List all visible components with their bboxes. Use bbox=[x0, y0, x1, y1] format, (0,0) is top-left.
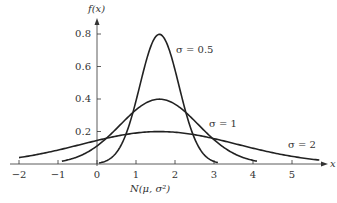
y-tick-label: 0.2 bbox=[61, 127, 91, 137]
chart-caption: N(μ, σ²) bbox=[130, 184, 170, 194]
curve-sigma-1 bbox=[62, 99, 257, 161]
x-axis-label: x bbox=[330, 159, 336, 169]
y-axis-label: f(x) bbox=[88, 4, 105, 14]
x-axis-arrow-icon bbox=[321, 162, 328, 167]
x-tick-label: 3 bbox=[211, 170, 217, 180]
axes bbox=[10, 18, 328, 167]
y-tick-label: 0.6 bbox=[61, 62, 91, 72]
x-tick-label: 5 bbox=[289, 170, 295, 180]
x-tick-label: 4 bbox=[250, 170, 256, 180]
x-tick-label: 2 bbox=[172, 170, 178, 180]
series-label-sigma-0-5: σ = 0.5 bbox=[176, 45, 213, 55]
x-tick-label: 0 bbox=[94, 170, 100, 180]
y-tick-label: 0.8 bbox=[61, 29, 91, 39]
x-tick-label: 1 bbox=[133, 170, 139, 180]
y-axis-arrow-icon bbox=[95, 18, 100, 25]
series-label-sigma-1: σ = 1 bbox=[209, 119, 237, 129]
x-tick-label: −2 bbox=[12, 170, 27, 180]
series-label-sigma-2: σ = 2 bbox=[288, 140, 316, 150]
x-tick-label: −1 bbox=[51, 170, 66, 180]
y-tick-label: 0.4 bbox=[61, 94, 91, 104]
